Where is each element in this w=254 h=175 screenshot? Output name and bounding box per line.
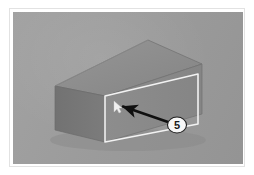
- callout-label: 5: [174, 119, 180, 131]
- illustration-scene: 5: [0, 0, 254, 175]
- box-left-end-face: [55, 86, 105, 142]
- figure-root: 5 Isometric box with highlighted face an…: [0, 0, 254, 175]
